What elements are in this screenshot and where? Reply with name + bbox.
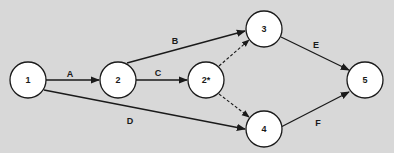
node-label: 1: [25, 75, 30, 85]
node-2-star: 2*: [188, 62, 224, 98]
node-label: 2: [115, 75, 120, 85]
edge-label-e: E: [313, 40, 319, 50]
diagram-svg: A B C D E F 1 2 2* 3 4 5: [0, 0, 394, 153]
edge-label-d: D: [127, 116, 134, 126]
node-3: 3: [246, 11, 282, 47]
node-4: 4: [246, 111, 282, 147]
node-label: 2*: [202, 75, 211, 85]
node-label: 3: [261, 24, 266, 34]
edge-label-a: A: [67, 69, 74, 79]
dummy-edge-2star-to-4: [219, 94, 249, 117]
dummy-edge-2star-to-3: [219, 40, 249, 66]
node-label: 4: [261, 124, 266, 134]
node-5: 5: [347, 62, 383, 98]
edge-label-c: C: [155, 68, 162, 78]
node-1: 1: [10, 62, 46, 98]
edge-label-b: B: [172, 36, 179, 46]
network-diagram: A B C D E F 1 2 2* 3 4 5: [0, 0, 394, 153]
node-label: 5: [362, 75, 367, 85]
node-2: 2: [100, 62, 136, 98]
edge-label-f: F: [315, 118, 321, 128]
